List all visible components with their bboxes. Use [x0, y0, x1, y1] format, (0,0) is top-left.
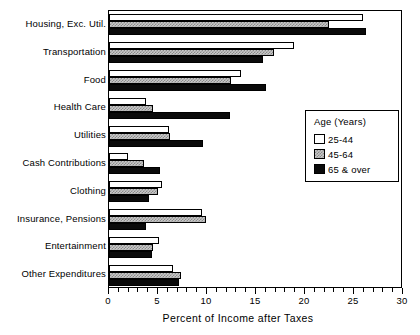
x-tick-label: 10 — [201, 295, 212, 307]
bar — [109, 188, 158, 195]
y-axis-labels: Housing, Exc. Util.TransportationFoodHea… — [0, 10, 106, 288]
x-axis-major-tick — [108, 288, 109, 294]
bar — [109, 265, 173, 272]
x-axis-minor-tick — [177, 288, 178, 292]
bar — [109, 251, 152, 258]
y-axis-label: Entertainment — [2, 241, 106, 251]
x-axis-major-tick — [157, 288, 158, 294]
x-axis-minor-tick — [382, 288, 383, 292]
x-axis-minor-tick — [216, 288, 217, 292]
legend-entries: 25-4445-6465 & over — [314, 132, 398, 176]
x-axis-minor-tick — [314, 288, 315, 292]
bar — [109, 98, 146, 105]
x-axis-major-tick — [255, 288, 256, 294]
bar — [109, 223, 146, 230]
x-axis-minor-tick — [265, 288, 266, 292]
y-axis-label: Health Care — [2, 102, 106, 112]
bar-chart: Housing, Exc. Util.TransportationFoodHea… — [0, 0, 420, 335]
x-axis-minor-tick — [373, 288, 374, 292]
x-axis-minor-tick — [235, 288, 236, 292]
bar-group — [109, 181, 401, 202]
x-axis-minor-tick — [147, 288, 148, 292]
x-axis-major-tick — [304, 288, 305, 294]
bar — [109, 160, 144, 167]
x-axis-minor-tick — [128, 288, 129, 292]
x-axis-minor-tick — [294, 288, 295, 292]
legend-title: Age (Years) — [314, 116, 398, 127]
x-axis-major-tick — [353, 288, 354, 294]
bar — [109, 216, 206, 223]
x-axis-minor-tick — [196, 288, 197, 292]
bar — [109, 56, 263, 63]
legend: Age (Years) 25-4445-6465 & over — [305, 110, 399, 182]
x-axis-minor-tick — [284, 288, 285, 292]
y-axis-label: Clothing — [2, 186, 106, 196]
bar — [109, 42, 294, 49]
bar — [109, 105, 153, 112]
black-swatch — [314, 164, 325, 174]
x-axis-minor-tick — [167, 288, 168, 292]
x-axis-minor-tick — [245, 288, 246, 292]
y-axis-label: Other Expenditures — [2, 269, 106, 279]
x-axis-minor-tick — [343, 288, 344, 292]
legend-item-label: 65 & over — [328, 164, 370, 175]
x-tick-label: 5 — [154, 295, 159, 307]
bar — [109, 153, 128, 160]
y-axis-label: Cash Contributions — [2, 158, 106, 168]
legend-item: 45-64 — [314, 147, 398, 161]
x-axis-minor-tick — [137, 288, 138, 292]
bar — [109, 112, 230, 119]
x-axis-minor-tick — [324, 288, 325, 292]
x-axis-minor-tick — [118, 288, 119, 292]
bar — [109, 237, 159, 244]
bar-group — [109, 42, 401, 63]
x-axis-major-tick — [206, 288, 207, 294]
bar — [109, 167, 160, 174]
legend-item: 25-44 — [314, 132, 398, 146]
bar — [109, 70, 241, 77]
bar — [109, 77, 231, 84]
x-axis-minor-tick — [363, 288, 364, 292]
y-axis-label: Housing, Exc. Util. — [2, 19, 106, 29]
legend-item: 65 & over — [314, 162, 398, 176]
bar-group — [109, 70, 401, 91]
bar — [109, 28, 366, 35]
bar-group — [109, 265, 401, 286]
bar-group — [109, 237, 401, 258]
legend-item-label: 45-64 — [328, 149, 353, 160]
x-axis-title: Percent of Income after Taxes — [0, 312, 420, 324]
x-tick-label: 20 — [299, 295, 310, 307]
bar — [109, 133, 170, 140]
bar — [109, 181, 162, 188]
y-axis-label: Transportation — [2, 47, 106, 57]
bar — [109, 126, 169, 133]
x-axis-minor-tick — [226, 288, 227, 292]
bar-group — [109, 209, 401, 230]
bar — [109, 272, 181, 279]
bar-group — [109, 14, 401, 35]
bar — [109, 84, 266, 91]
x-axis-title-text: Percent of Income after Taxes — [107, 312, 314, 324]
x-tick-label: 15 — [250, 295, 261, 307]
x-axis-major-tick — [402, 288, 403, 294]
white-swatch — [314, 134, 325, 144]
y-axis-label: Food — [2, 75, 106, 85]
legend-item-label: 25-44 — [328, 134, 353, 145]
bar — [109, 244, 153, 251]
y-axis-label: Utilities — [2, 130, 106, 140]
x-tick-label: 25 — [348, 295, 359, 307]
x-axis-minor-tick — [392, 288, 393, 292]
bar — [109, 49, 274, 56]
gray-hatch-swatch — [314, 149, 325, 159]
x-axis-minor-tick — [333, 288, 334, 292]
bar — [109, 209, 202, 216]
x-tick-label: 0 — [105, 295, 110, 307]
bar — [109, 195, 149, 202]
bar — [109, 14, 363, 21]
x-axis-ticks — [108, 288, 402, 294]
x-axis-minor-tick — [186, 288, 187, 292]
x-axis-minor-tick — [275, 288, 276, 292]
x-tick-label: 30 — [397, 295, 408, 307]
y-axis-label: Insurance, Pensions — [2, 214, 106, 224]
bar — [109, 21, 329, 28]
